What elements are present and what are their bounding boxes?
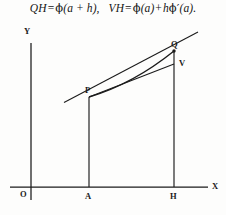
function-curve xyxy=(89,51,174,97)
tangent-secant-diagram: Y X O A H P Q V xyxy=(0,18,226,215)
secant-line-pv xyxy=(89,64,174,97)
point-p-label: P xyxy=(85,86,90,95)
formula-right-plus: + xyxy=(154,2,163,14)
formula-right-phi-1: ϕ xyxy=(133,1,141,15)
formula-right-arg-1: (a) xyxy=(141,2,155,14)
formula-left-equals: = xyxy=(47,2,56,14)
point-q-label: Q xyxy=(171,40,178,49)
point-v-label: V xyxy=(179,59,185,68)
formula-left-phi: ϕ xyxy=(55,1,63,15)
formula-left-arg: (a + h), xyxy=(63,2,99,14)
formula-right-equals: = xyxy=(124,2,133,14)
x-axis-label: X xyxy=(212,182,218,191)
formula-right-phi-2: ϕ′ xyxy=(169,1,180,15)
origin-label: O xyxy=(20,190,27,199)
point-q-dot xyxy=(172,49,175,52)
y-axis-label: Y xyxy=(24,27,30,36)
point-h-label: H xyxy=(170,192,177,201)
point-a-label: A xyxy=(85,192,91,201)
formula-left-lhs: QH xyxy=(30,2,47,14)
formula-right-lhs: VH xyxy=(109,2,125,14)
figure-page: QH=ϕ(a + h),VH=ϕ(a)+hϕ′(a). Y X O A H P … xyxy=(0,0,226,215)
diagram-svg xyxy=(0,18,226,215)
formula-right-arg-2: (a). xyxy=(179,2,196,14)
formula-caption: QH=ϕ(a + h),VH=ϕ(a)+hϕ′(a). xyxy=(0,1,226,15)
